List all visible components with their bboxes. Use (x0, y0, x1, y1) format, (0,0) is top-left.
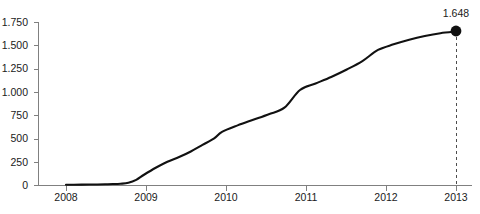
y-axis: 1.7501.5001.2501.0007505002500 (2, 16, 39, 191)
y-tick-label: 500 (10, 132, 28, 144)
x-tick-label: 2012 (374, 191, 398, 203)
y-tick-label: 1.000 (2, 86, 28, 98)
y-tick-label: 0 (22, 179, 28, 191)
y-tick-label: 250 (10, 156, 28, 168)
x-tick-label: 2009 (134, 191, 158, 203)
series-line-cumulative (66, 32, 456, 185)
y-tick-label: 1.500 (2, 39, 28, 51)
series-group (66, 32, 456, 185)
endpoint-marker-dot (451, 26, 462, 37)
x-tick-label: 2010 (214, 191, 238, 203)
x-tick-label: 2011 (295, 191, 318, 203)
y-tick-label: 1.750 (2, 16, 28, 28)
line-chart: 1.7501.5001.2501.0007505002500 200820092… (0, 0, 480, 214)
annotation-group: 1.648 (443, 7, 469, 185)
x-axis: 200820092010201120122013 (38, 186, 472, 204)
chart-container: 1.7501.5001.2501.0007505002500 200820092… (0, 0, 480, 214)
y-tick-label: 750 (10, 109, 28, 121)
x-tick-label: 2013 (444, 191, 468, 203)
y-tick-label: 1.250 (2, 62, 28, 74)
x-tick-label: 2008 (54, 191, 78, 203)
endpoint-value-label: 1.648 (443, 7, 469, 19)
